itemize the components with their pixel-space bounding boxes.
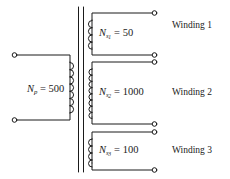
terminal-primary-top[interactable] [12,53,17,58]
winding-1-name: Winding 1 [172,21,212,31]
terminal-winding1-bottom[interactable] [152,53,157,58]
primary-coil-loops [70,63,74,113]
winding2-subscript-index: 2 [108,93,111,99]
primary-symbol: N [27,83,34,94]
winding-3-name: Winding 3 [172,146,212,156]
primary-turns-value: 500 [49,83,65,94]
winding3-equals: = [114,144,120,155]
winding1-equals: = [114,27,120,38]
winding2-turns-label: Ns2 = 1000 [99,87,144,98]
winding1-turns-label: Ns1 = 50 [99,28,133,39]
secondary-3-coil-loops [89,139,93,167]
primary-equals: = [40,83,46,94]
winding-2-name: Winding 2 [172,88,212,98]
secondary-1-coil-loops [88,21,92,50]
primary-turns-label: Np = 500 [27,84,64,95]
transformer-diagram: Np = 500 Ns1 = 50 Ns2 = 1000 Ns3 = 100 W… [0,0,230,179]
winding1-symbol: N [99,27,106,38]
winding3-turns-label: Ns3 = 100 [99,145,138,156]
terminal-winding3-top[interactable] [152,130,157,135]
terminal-winding1-top[interactable] [152,11,157,16]
iron-core [79,7,84,172]
winding3-turns-value: 100 [123,144,139,155]
winding1-subscript-index: 1 [108,34,111,40]
terminal-winding3-bottom[interactable] [152,168,157,173]
winding2-turns-value: 1000 [123,86,144,97]
winding3-symbol: N [99,144,106,155]
terminal-primary-bottom[interactable] [12,118,17,123]
winding1-turns-value: 50 [123,27,134,38]
terminal-winding2-bottom[interactable] [152,122,157,127]
terminal-winding2-top[interactable] [152,60,157,65]
winding2-equals: = [114,86,120,97]
winding3-subscript-index: 3 [108,151,111,157]
winding2-symbol: N [99,86,106,97]
primary-subscript: p [34,88,37,95]
